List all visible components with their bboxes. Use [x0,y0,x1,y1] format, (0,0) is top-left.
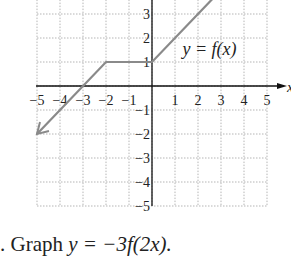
x-tick-label: −3 [76,93,91,108]
y-tick-label: −5 [135,199,150,214]
problem-equation: y = −3f(2x). [68,232,172,256]
y-tick-label: 2 [143,31,150,46]
x-tick-label: 5 [264,93,271,108]
y-tick-label: −2 [135,127,150,142]
x-tick-label: −2 [99,93,114,108]
problem-statement: . Graph y = −3f(2x). [0,232,172,257]
x-axis-arrow-icon [277,83,287,89]
function-graph: x−5−4−3−2−112345−5−4−3−2−1123y = f(x) [0,0,291,225]
x-tick-label: 1 [172,93,179,108]
y-tick-label: −3 [135,151,150,166]
function-label: y = f(x) [180,39,236,60]
x-tick-label: −5 [30,93,45,108]
x-tick-label: 2 [195,93,202,108]
y-tick-label: −4 [135,175,150,190]
y-tick-label: −1 [135,103,150,118]
x-axis-label: x [286,79,291,95]
y-tick-label: 3 [143,7,150,22]
x-tick-label: 3 [218,93,225,108]
x-tick-label: 4 [241,93,248,108]
problem-prefix: . Graph [0,232,68,256]
